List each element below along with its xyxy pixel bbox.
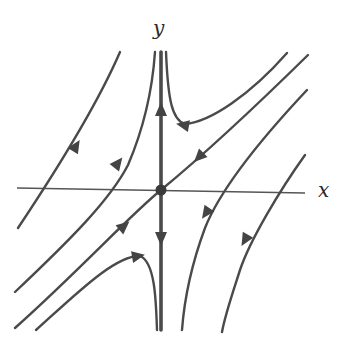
trajectory-right-outer — [222, 155, 305, 332]
arrow-icon — [131, 249, 146, 263]
y-axis-label: y — [153, 18, 164, 38]
phase-portrait-canvas — [0, 0, 350, 345]
x-axis-label: x — [318, 180, 329, 200]
arrow-down-icon — [155, 232, 167, 246]
saddle-point — [156, 185, 167, 196]
arrow-icon — [116, 217, 134, 235]
trajectory-upper-left-outer — [18, 52, 120, 228]
arrow-up-icon — [155, 102, 167, 116]
phase-portrait: y x — [0, 0, 350, 345]
trajectory-right-inner — [182, 90, 307, 330]
arrow-icon — [110, 154, 127, 172]
trajectory-upper-right-hyperbola — [166, 52, 287, 124]
